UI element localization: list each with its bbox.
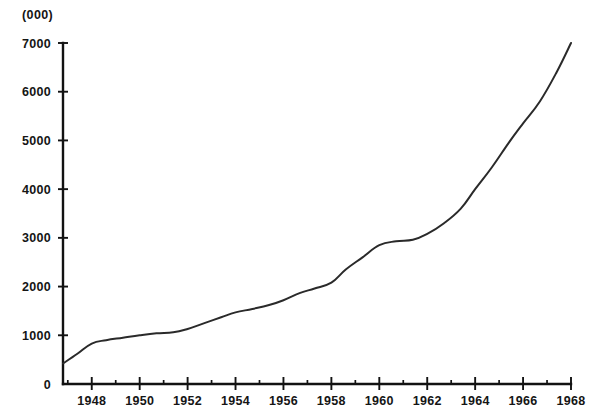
line-chart: (000) 01000200030004000500060007000 1948… xyxy=(0,0,594,419)
x-axis-tick-label: 1964 xyxy=(461,394,490,408)
axis-lines xyxy=(63,43,571,384)
x-axis-tick-label: 1948 xyxy=(77,394,106,408)
chart-canvas: 01000200030004000500060007000 1948195019… xyxy=(0,0,594,419)
y-axis-tick-label: 7000 xyxy=(22,37,51,51)
x-axis-tick-label: 1966 xyxy=(509,394,538,408)
y-axis-unit-label: (000) xyxy=(22,8,53,22)
x-axis-tick-label: 1960 xyxy=(365,394,394,408)
y-axis-tick-label: 4000 xyxy=(22,183,51,197)
y-axis-tick-label: 3000 xyxy=(22,231,51,245)
x-axis-tick-label: 1956 xyxy=(269,394,298,408)
x-axis-tick-label: 1954 xyxy=(221,394,250,408)
data-line-series-1 xyxy=(63,43,571,364)
data-series-group xyxy=(63,43,571,364)
x-axis-tick-label: 1952 xyxy=(173,394,202,408)
y-axis-tick-label: 5000 xyxy=(22,134,51,148)
x-axis-label-group: 1948195019521954195619581960196219641966… xyxy=(77,394,585,408)
y-axis-label-group: 01000200030004000500060007000 xyxy=(22,37,51,392)
y-axis-tick-label: 0 xyxy=(44,378,51,392)
y-axis-tick-label: 2000 xyxy=(22,280,51,294)
x-axis-tick-label: 1968 xyxy=(556,394,585,408)
y-axis-tick-label: 6000 xyxy=(22,85,51,99)
x-axis-tick-label: 1950 xyxy=(125,394,154,408)
x-axis-tick-label: 1958 xyxy=(317,394,346,408)
y-axis-tick-label: 1000 xyxy=(22,329,51,343)
x-axis-tick-label: 1962 xyxy=(413,394,442,408)
